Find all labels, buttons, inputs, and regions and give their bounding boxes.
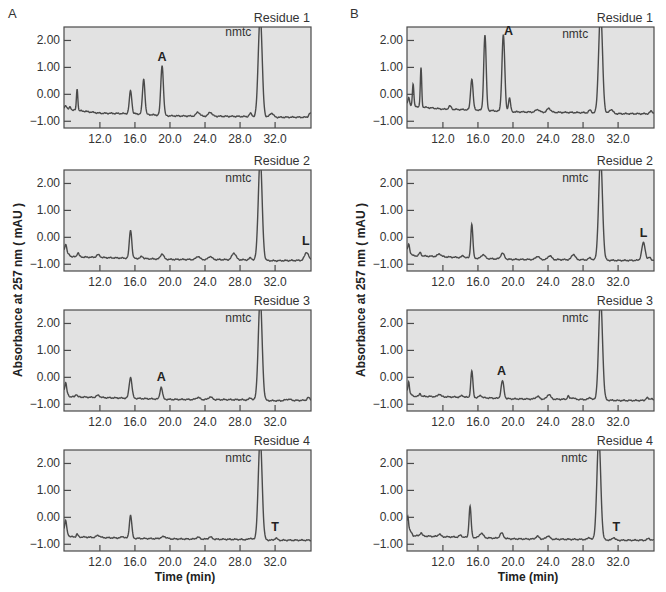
y-tick-label: 2.00 [37, 456, 61, 470]
peak-annotation: L [640, 226, 648, 240]
x-axis-title: Time (min) [155, 570, 215, 584]
peak-annotation: L [302, 234, 310, 248]
x-tick-label: 32.0 [606, 132, 630, 146]
x-tick-label: 24.0 [536, 132, 560, 146]
chromatogram-b-residue-3: 2.001.000.00−1.0012.016.020.024.028.032.… [373, 294, 654, 429]
y-tick-label: 0.00 [380, 230, 404, 244]
x-tick-label: 12.0 [88, 132, 112, 146]
x-tick-label: 16.0 [466, 555, 490, 569]
peak-annotation: A [504, 24, 513, 38]
x-tick-label: 20.0 [501, 275, 525, 289]
residue-label: Residue 2 [254, 154, 310, 168]
x-tick-label: 20.0 [501, 415, 525, 429]
y-tick-label: 2.00 [380, 176, 404, 190]
y-tick-label: 1.00 [37, 343, 61, 357]
residue-label: Residue 2 [597, 154, 653, 168]
x-tick-label: 28.0 [228, 555, 252, 569]
x-tick-label: 20.0 [158, 555, 182, 569]
residue-label: Residue 1 [254, 11, 310, 25]
y-tick-label: 1.00 [37, 60, 61, 74]
plot-area [64, 450, 311, 551]
x-tick-label: 20.0 [501, 132, 525, 146]
x-tick-label: 12.0 [431, 132, 455, 146]
y-tick-label: −1.00 [30, 114, 61, 128]
x-tick-label: 12.0 [431, 275, 455, 289]
nmtc-annotation: nmtc [561, 451, 587, 465]
y-tick-label: 2.00 [380, 316, 404, 330]
x-tick-label: 24.0 [536, 275, 560, 289]
x-tick-label: 32.0 [263, 415, 287, 429]
y-tick-label: 2.00 [37, 33, 61, 47]
residue-label: Residue 1 [597, 11, 653, 25]
chromatogram-a-residue-2: 2.001.000.00−1.0012.016.020.024.028.032.… [30, 154, 311, 289]
chromatogram-b-residue-2: 2.001.000.00−1.0012.016.020.024.028.032.… [373, 154, 654, 289]
x-tick-label: 12.0 [431, 555, 455, 569]
y-tick-label: 1.00 [380, 343, 404, 357]
y-tick-label: 1.00 [380, 60, 404, 74]
x-tick-label: 12.0 [88, 415, 112, 429]
y-tick-label: 0.00 [37, 230, 61, 244]
x-tick-label: 20.0 [501, 555, 525, 569]
y-tick-label: −1.00 [30, 537, 61, 551]
panel-letter-a: A [8, 6, 17, 21]
x-tick-label: 28.0 [571, 275, 595, 289]
x-tick-label: 20.0 [158, 275, 182, 289]
residue-label: Residue 4 [254, 434, 310, 448]
x-tick-label: 28.0 [571, 415, 595, 429]
y-tick-label: −1.00 [373, 397, 404, 411]
x-tick-label: 20.0 [158, 415, 182, 429]
chromatogram-a-residue-3: 2.001.000.00−1.0012.016.020.024.028.032.… [30, 294, 311, 429]
peak-annotation: A [158, 50, 167, 64]
y-tick-label: −1.00 [373, 257, 404, 271]
x-tick-label: 28.0 [571, 555, 595, 569]
y-tick-label: 2.00 [380, 456, 404, 470]
panel-letter-b: B [350, 6, 359, 21]
y-tick-label: 1.00 [380, 483, 404, 497]
x-tick-label: 28.0 [228, 275, 252, 289]
x-tick-label: 32.0 [263, 555, 287, 569]
chromatogram-a-residue-1: 2.001.000.00−1.0012.016.020.024.028.032.… [30, 11, 311, 146]
nmtc-annotation: nmtc [562, 311, 588, 325]
x-tick-label: 28.0 [228, 415, 252, 429]
residue-label: Residue 4 [597, 434, 653, 448]
x-tick-label: 16.0 [123, 415, 147, 429]
plot-area [407, 310, 654, 411]
nmtc-annotation: nmtc [225, 311, 251, 325]
y-tick-label: −1.00 [373, 537, 404, 551]
y-tick-label: 0.00 [380, 370, 404, 384]
x-tick-label: 24.0 [193, 275, 217, 289]
x-tick-label: 20.0 [158, 132, 182, 146]
y-axis-title: Absorbance at 257 nm ( mAU ) [354, 203, 368, 377]
y-axis-title: Absorbance at 257 nm ( mAU ) [11, 203, 25, 377]
peak-annotation: A [497, 364, 506, 378]
plot-area [407, 27, 654, 128]
x-tick-label: 16.0 [466, 132, 490, 146]
plot-area [407, 450, 654, 551]
peak-annotation: A [157, 370, 166, 384]
y-tick-label: 1.00 [37, 483, 61, 497]
x-tick-label: 16.0 [123, 275, 147, 289]
nmtc-annotation: nmtc [225, 171, 251, 185]
x-tick-label: 24.0 [193, 555, 217, 569]
y-tick-label: 2.00 [37, 316, 61, 330]
x-tick-label: 24.0 [193, 415, 217, 429]
nmtc-annotation: nmtc [562, 171, 588, 185]
peak-annotation: T [271, 520, 279, 534]
plot-area [64, 310, 311, 411]
chromatogram-b-residue-4: 2.001.000.00−1.0012.016.020.024.028.032.… [373, 434, 654, 569]
y-tick-label: −1.00 [30, 397, 61, 411]
y-tick-label: −1.00 [30, 257, 61, 271]
chromatogram-figure: ABAbsorbance at 257 nm ( mAU )Absorbance… [0, 0, 666, 592]
x-tick-label: 16.0 [466, 275, 490, 289]
nmtc-annotation: nmtc [225, 25, 251, 39]
x-tick-label: 24.0 [193, 132, 217, 146]
y-tick-label: 0.00 [37, 510, 61, 524]
x-tick-label: 16.0 [123, 132, 147, 146]
nmtc-annotation: nmtc [225, 451, 251, 465]
chromatogram-a-residue-4: 2.001.000.00−1.0012.016.020.024.028.032.… [30, 434, 311, 569]
x-axis-title: Time (min) [498, 570, 558, 584]
y-tick-label: 2.00 [37, 176, 61, 190]
x-tick-label: 32.0 [263, 132, 287, 146]
x-tick-label: 16.0 [466, 415, 490, 429]
x-tick-label: 12.0 [88, 555, 112, 569]
